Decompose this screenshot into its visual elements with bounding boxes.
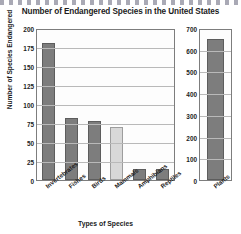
gridline bbox=[200, 159, 231, 160]
bar-invertebrates[interactable] bbox=[42, 43, 55, 180]
gridline bbox=[37, 48, 174, 49]
y-tick-label: 150 bbox=[23, 64, 34, 71]
gridline bbox=[200, 94, 231, 95]
gridline bbox=[200, 138, 231, 139]
y-tick-label: 75 bbox=[27, 121, 34, 128]
left-y-axis-ticks: 2001751501251007550250 bbox=[14, 29, 34, 181]
y-tick-label: 400 bbox=[186, 91, 197, 98]
bar-birds[interactable] bbox=[88, 121, 101, 180]
right-y-axis-ticks: 7006005004003002001000 bbox=[176, 29, 197, 181]
y-tick-label: 100 bbox=[186, 156, 197, 163]
gridline bbox=[37, 105, 174, 106]
y-tick-label: 125 bbox=[23, 83, 34, 90]
bar-mammals[interactable] bbox=[110, 127, 123, 180]
y-tick-label: 25 bbox=[27, 159, 34, 166]
gridline bbox=[37, 124, 174, 125]
gridline bbox=[200, 72, 231, 73]
y-tick-label: 200 bbox=[186, 134, 197, 141]
gridline bbox=[37, 86, 174, 87]
chart-figure: Number of Endangered Species in the Unit… bbox=[0, 0, 241, 234]
y-tick-label: 600 bbox=[186, 47, 197, 54]
chart-title: Number of Endangered Species in the Unit… bbox=[0, 7, 241, 16]
y-tick-label: 0 bbox=[193, 178, 197, 185]
right-plot-area bbox=[199, 29, 232, 181]
gridline bbox=[37, 162, 174, 163]
left-x-axis-ticks: InvertebratesFishesBirdsMammalsAmphibian… bbox=[36, 184, 175, 218]
y-tick-label: 0 bbox=[30, 178, 34, 185]
gridline bbox=[37, 143, 174, 144]
y-tick-label: 175 bbox=[23, 45, 34, 52]
y-tick-label: 700 bbox=[186, 26, 197, 33]
gridline bbox=[200, 116, 231, 117]
top-dotted-border bbox=[0, 0, 241, 5]
gridline bbox=[37, 67, 174, 68]
x-axis-title: Types of Species bbox=[36, 220, 175, 227]
y-tick-label: 100 bbox=[23, 102, 34, 109]
y-tick-label: 300 bbox=[186, 112, 197, 119]
y-tick-label: 200 bbox=[23, 26, 34, 33]
right-x-axis-ticks: Plants bbox=[199, 184, 232, 218]
gridline bbox=[200, 51, 231, 52]
y-axis-title: Number of Species Endangered bbox=[6, 0, 13, 125]
right-bar-group bbox=[200, 30, 231, 180]
y-tick-label: 50 bbox=[27, 140, 34, 147]
y-tick-label: 500 bbox=[186, 69, 197, 76]
left-plot-area bbox=[36, 29, 175, 181]
